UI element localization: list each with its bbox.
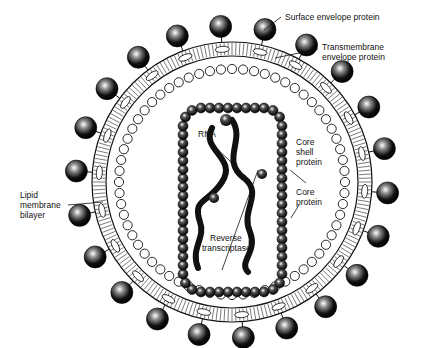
label-core-protein-1: Core	[296, 187, 314, 197]
label-lipid-2: membrane	[20, 200, 61, 210]
label-lipid-1: Lipid	[20, 190, 38, 200]
core-protein-ring	[114, 64, 349, 299]
label-transmembrane-2: envelope protein	[322, 52, 385, 62]
label-rna: RNA	[198, 129, 216, 139]
label-core-protein-2: protein	[296, 197, 322, 207]
lipid-membrane-bilayer	[92, 42, 372, 322]
label-transmembrane-1: Transmembrane	[322, 42, 384, 52]
virion-diagram: Surface envelope protein Transmembrane e…	[0, 0, 425, 348]
label-core-shell-2: shell	[296, 147, 313, 157]
label-core-shell-3: protein	[296, 157, 322, 167]
label-core-shell-1: Core	[296, 137, 314, 147]
label-rt-2: transcriptase	[202, 243, 251, 253]
core-shell	[178, 103, 287, 297]
label-rt-1: Reverse	[210, 233, 242, 243]
label-lipid-3: bilayer	[20, 210, 45, 220]
label-surface-envelope-protein: Surface envelope protein	[285, 12, 380, 22]
